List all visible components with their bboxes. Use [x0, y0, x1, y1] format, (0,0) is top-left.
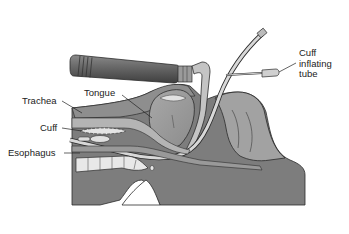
label-cuff-inflating-tube-line3: tube [299, 69, 332, 80]
cuff-tube-leader [279, 63, 296, 72]
pilot-balloon [262, 69, 279, 77]
anatomical-diagram: Tongue Trachea Cuff Esophagus Cuff infla… [0, 0, 349, 234]
label-trachea: Trachea [22, 96, 57, 106]
label-cuff: Cuff [40, 123, 57, 133]
label-tongue: Tongue [84, 88, 115, 98]
label-cuff-inflating-tube-line1: Cuff [299, 48, 332, 59]
label-cuff-inflating-tube: Cuff inflating tube [299, 48, 332, 80]
diagram-illustration [0, 0, 349, 234]
label-esophagus: Esophagus [8, 148, 56, 158]
